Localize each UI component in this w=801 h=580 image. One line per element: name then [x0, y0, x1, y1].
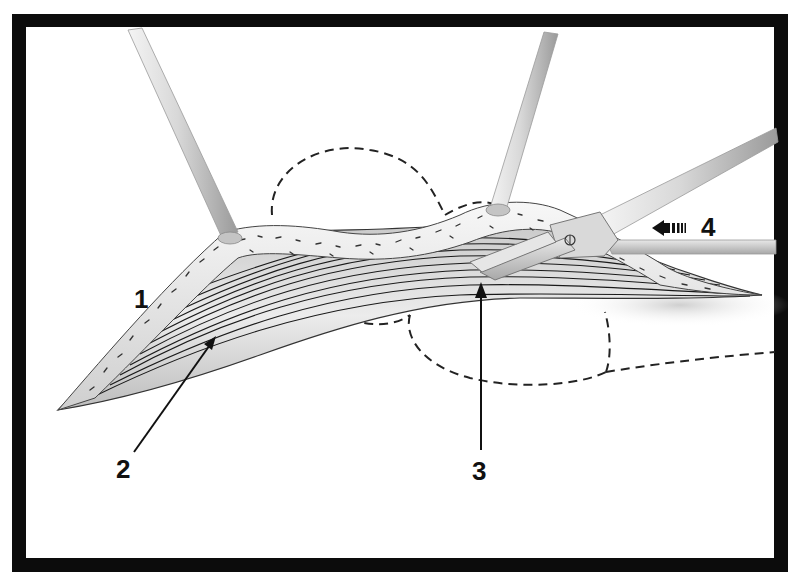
callout-label-4: 4	[701, 214, 715, 240]
callout-label-1: 1	[134, 286, 148, 312]
retractor-hook-right	[486, 32, 558, 216]
callout-label-2: 2	[116, 456, 130, 482]
callout-label-3: 3	[472, 458, 486, 484]
callout-arrow-3	[475, 282, 487, 450]
surgical-illustration	[0, 0, 801, 580]
direction-arrow-left-icon	[652, 220, 686, 236]
retractor-hook-left	[128, 28, 242, 244]
